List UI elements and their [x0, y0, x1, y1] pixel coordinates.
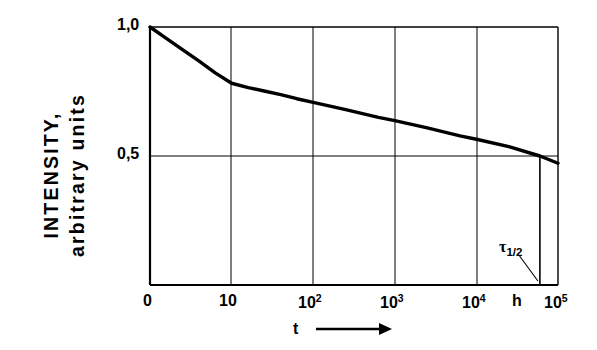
- x-tick-label-1e2: 102: [298, 292, 322, 312]
- x-axis-title: t: [293, 320, 298, 338]
- x-axis-arrow-icon: [316, 323, 392, 335]
- half-life-annotation-label: τ1/2: [499, 238, 522, 258]
- y-tick-label-0: 0,5: [117, 145, 139, 163]
- data-series-intensity-decay: [150, 27, 558, 176]
- half-life-drop-line: [519, 156, 540, 285]
- tau-subscript: 1/2: [506, 246, 522, 258]
- x-tick-label-10: 10: [219, 292, 237, 310]
- x-axis-unit-label: h: [512, 292, 522, 310]
- x-tick-label-1e4: 104: [462, 292, 486, 312]
- y-tick-label-1: 1,0: [117, 16, 139, 34]
- x-tick-label-0: 0: [143, 292, 152, 310]
- x-tick-label-1e3: 103: [380, 292, 404, 312]
- x-tick-label-1e5: 105: [544, 292, 568, 312]
